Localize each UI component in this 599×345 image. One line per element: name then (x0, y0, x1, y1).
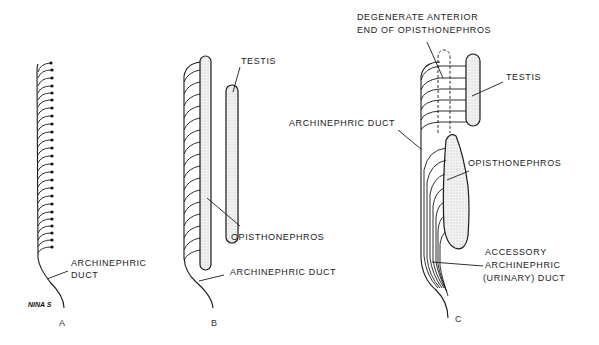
panel-a-label-archinephric: ARCHINEPHRIC (71, 258, 147, 268)
panel-c-testis (466, 54, 480, 126)
diagram-svg: ARCHINEPHRIC DUCT NINA S A (0, 0, 599, 345)
panel-c-label-archinephric-duct: ARCHINEPHRIC DUCT (289, 118, 395, 128)
panel-c-label-accessory-1: ACCESSORY (485, 247, 547, 257)
panel-a-letter: A (59, 318, 65, 328)
panel-a-duct-leader (47, 271, 68, 279)
panel-c-anterior-tubules (421, 66, 466, 130)
panel-b-opisthonephros (200, 56, 211, 270)
panel-c-label-accessory-3: (URINARY) DUCT (483, 273, 565, 283)
panel-b-label-archinephric-duct: ARCHINEPHRIC DUCT (230, 267, 336, 277)
panel-a-tubules (38, 61, 54, 253)
panel-b-label-opisthonephros: OPISTHONEPHROS (231, 232, 324, 242)
panel-a-label-duct: DUCT (71, 270, 98, 280)
panel-c: DEGENERATE ANTERIOR END OF OPISTHONEPHRO… (289, 12, 565, 324)
panel-b-duct-leader (199, 275, 224, 281)
panel-c-opisthonephros (443, 135, 469, 249)
panel-c-duct-leader (398, 130, 421, 149)
panel-c-degenerate-leader (427, 42, 443, 78)
panel-c-letter: C (455, 314, 462, 324)
panel-b-letter: B (211, 318, 217, 328)
panel-b-tubules (184, 70, 200, 260)
panel-c-label-opisthonephros: OPISTHONEPHROS (468, 158, 561, 168)
panel-a-archinephric-duct (37, 64, 64, 308)
panel-c-label-accessory-2: ARCHINEPHRIC (485, 260, 561, 270)
panel-c-label-testis: TESTIS (506, 72, 541, 82)
kidney-development-diagram: ARCHINEPHRIC DUCT NINA S A (0, 0, 599, 345)
panel-c-label-degenerate-1: DEGENERATE ANTERIOR (357, 12, 478, 22)
panel-b: TESTIS OPISTHONEPHROS ARCHINEPHRIC DUCT … (184, 56, 336, 328)
artist-signature: NINA S (28, 301, 52, 308)
panel-c-label-degenerate-2: END OF OPISTHONEPHROS (357, 25, 491, 35)
panel-b-label-testis: TESTIS (241, 56, 276, 66)
panel-a: ARCHINEPHRIC DUCT NINA S A (28, 61, 147, 328)
